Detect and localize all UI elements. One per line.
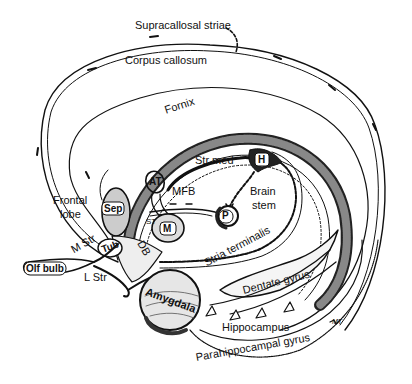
label-brain-stem-line2: stem (252, 200, 276, 211)
label-frontal-lobe-line2: lobe (60, 209, 81, 220)
label-mfb: MFB (172, 186, 195, 197)
label-olf-bulb: Olf bulb (26, 264, 64, 274)
label-interpeduncular: P (222, 211, 229, 221)
label-db: DB (140, 236, 155, 247)
label-mammillary: M (163, 224, 171, 234)
label-corpus-callosum: Corpus callosum (125, 55, 207, 66)
label-m-str: M Str (72, 245, 98, 256)
label-anterior-thalamus: AT (149, 177, 162, 187)
label-habenula: H (258, 155, 265, 165)
label-dentate-gyrus: Dentate gyrus (243, 285, 311, 296)
label-l-str: L Str (84, 272, 107, 283)
label-brain-stem-line1: Brain (250, 186, 276, 197)
label-str-med: Str med (195, 155, 234, 166)
label-septum: Sep (104, 204, 122, 214)
label-supracallosal-striae: Supracallosal striae (135, 20, 231, 31)
label-parahippocampal-gyrus: Parahippocampal gyrus (196, 352, 312, 363)
label-stria-terminalis: Stria terminalis (205, 258, 278, 269)
label-fornix: Fornix (165, 105, 196, 116)
label-st: ST (146, 218, 156, 226)
label-amygdala: Amygdala (146, 286, 199, 297)
label-hippocampus: Hippocampus (222, 322, 289, 333)
limbic-system-diagram: Supracallosal striae Corpus callosum For… (0, 0, 412, 384)
label-frontal-lobe-line1: Frontal (53, 195, 87, 206)
illustrator-signature: MT (332, 318, 342, 325)
label-tub: Tub (102, 245, 120, 255)
